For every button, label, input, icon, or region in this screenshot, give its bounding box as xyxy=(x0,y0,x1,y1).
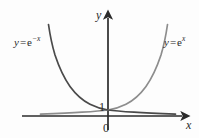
x-axis-label: x xyxy=(186,119,191,131)
curve-label-exponent: −x xyxy=(32,34,40,43)
curve-label-exponent: x xyxy=(182,34,185,43)
y-intercept-label: 1 xyxy=(99,101,105,113)
curve-exp-neg-x xyxy=(49,25,176,115)
y-axis-label: y xyxy=(96,9,101,21)
origin-label: 0 xyxy=(103,122,109,134)
curve-label-exp-x: y=ex xyxy=(164,37,185,48)
curve-label-equals: = xyxy=(169,36,177,48)
curve-label-equals: = xyxy=(19,36,27,48)
curve-label-exp-neg-x: y=e−x xyxy=(14,37,40,48)
exponential-functions-figure: y=e−x y=ex y x 1 0 xyxy=(0,0,199,138)
